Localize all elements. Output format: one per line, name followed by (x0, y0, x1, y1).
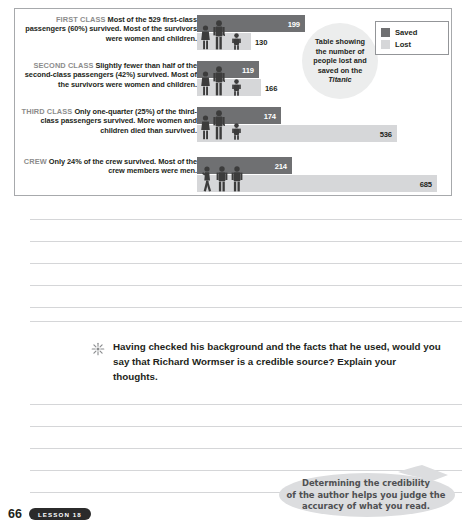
row-desc-text-first-class: Most of the 529 first-class passengers (… (25, 15, 197, 43)
writing-line (30, 263, 462, 264)
table-row: THIRD CLASS Only one-quarter (25%) of th… (15, 105, 451, 155)
row-class-label-first-class: FIRST CLASS (56, 15, 106, 24)
callout-line-3: accuracy of what you read. (302, 501, 430, 511)
writing-line (30, 404, 462, 405)
bar-lost-first-class: 130 (197, 33, 251, 50)
bar-saved-third-class: 174 (197, 107, 281, 124)
bar-value-saved-crew: 214 (275, 161, 287, 170)
bar-lost-second-class: 166 (197, 79, 261, 96)
writing-line (30, 241, 462, 242)
bar-value-lost-first-class: 130 (255, 37, 267, 46)
page-number: 66 (8, 507, 22, 521)
bar-value-lost-third-class: 536 (380, 129, 392, 138)
row-description-second-class: SECOND CLASS Slightly fewer than half of… (21, 61, 197, 89)
row-class-label-third-class: THIRD CLASS (22, 107, 73, 116)
table-row: SECOND CLASS Slightly fewer than half of… (15, 59, 451, 105)
row-bars-third-class: THIRD CLASS Only one-quarter (25%) of th… (197, 105, 451, 142)
bar-lost-third-class: 536 (197, 125, 397, 142)
tip-callout: Determining the credibility of the autho… (272, 462, 458, 522)
bar-value-saved-first-class: 199 (288, 19, 300, 28)
chart-rows: FIRST CLASS Most of the 529 first-class … (15, 13, 451, 201)
bar-value-lost-crew: 685 (420, 179, 432, 188)
bar-saved-first-class: 199 (197, 15, 305, 32)
bar-value-saved-third-class: 174 (264, 111, 276, 120)
bar-value-lost-second-class: 166 (265, 83, 277, 92)
sparkle-icon (91, 342, 105, 356)
table-row: CREW Only 24% of the crew survived. Most… (15, 155, 451, 201)
question-text: Having checked his background and the fa… (113, 340, 443, 384)
callout-line-1: Determining the credibility (302, 478, 430, 488)
callout-text: Determining the credibility of the autho… (282, 478, 450, 513)
question-block: Having checked his background and the fa… (113, 340, 443, 384)
bar-value-saved-second-class: 119 (242, 65, 254, 74)
lesson-badge: LESSON 18 (29, 508, 91, 520)
row-bars-second-class: SECOND CLASS Slightly fewer than half of… (197, 59, 451, 96)
row-bars-first-class: FIRST CLASS Most of the 529 first-class … (197, 13, 451, 50)
writing-line (30, 285, 462, 286)
row-class-label-crew: CREW (24, 157, 47, 166)
callout-line-2: of the author helps you judge the (287, 490, 446, 500)
writing-line (30, 426, 462, 427)
infographic-panel: Table showing the number of people lost … (14, 8, 452, 196)
writing-line (30, 448, 462, 449)
row-description-crew: CREW Only 24% of the crew survived. Most… (21, 157, 197, 176)
row-description-third-class: THIRD CLASS Only one-quarter (25%) of th… (21, 107, 197, 135)
row-description-first-class: FIRST CLASS Most of the 529 first-class … (21, 15, 197, 43)
row-desc-text-crew: Only 24% of the crew survived. Most of t… (49, 157, 197, 175)
bar-saved-second-class: 119 (197, 61, 259, 78)
bar-lost-crew: 685 (197, 175, 437, 192)
table-row: FIRST CLASS Most of the 529 first-class … (15, 13, 451, 59)
writing-line (30, 219, 462, 220)
bar-saved-crew: 214 (197, 157, 292, 174)
row-class-label-second-class: SECOND CLASS (34, 61, 94, 70)
writing-line (30, 307, 462, 308)
row-bars-crew: CREW Only 24% of the crew survived. Most… (197, 155, 451, 192)
page-footer: 66 LESSON 18 (8, 507, 91, 521)
writing-line (30, 321, 462, 322)
